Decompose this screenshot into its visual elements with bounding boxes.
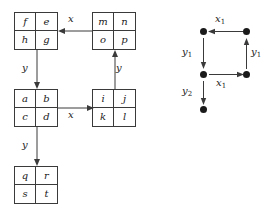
lattice-arrow-y1-left bbox=[197, 38, 210, 70]
arrow-label-left-upper-vertical: y bbox=[22, 63, 28, 73]
block-middle-left: a b c d bbox=[14, 89, 58, 127]
lattice-arrow-x1-top bbox=[208, 25, 244, 38]
block-cell: f bbox=[15, 13, 36, 31]
block-cell: h bbox=[15, 31, 36, 49]
block-bottom-left: q r s t bbox=[14, 166, 58, 204]
block-middle-right: i j k l bbox=[92, 89, 136, 127]
block-cell: k bbox=[93, 108, 114, 126]
lattice-arrow-label-y1-right: y1 bbox=[251, 47, 261, 59]
block-top-left: f e h g bbox=[14, 12, 58, 50]
label-sub: 1 bbox=[222, 82, 226, 90]
lattice-arrow-label-x1-top: x1 bbox=[215, 14, 225, 26]
lattice-node-middle-left bbox=[200, 71, 207, 78]
arrow-middle-horizontal bbox=[58, 101, 94, 115]
arrow-label-right-vertical: y bbox=[116, 63, 122, 73]
block-cell: p bbox=[114, 31, 135, 49]
lattice-node-middle-right bbox=[243, 71, 250, 78]
lattice-arrow-label-y2-left: y2 bbox=[182, 86, 192, 98]
label-sub: 1 bbox=[221, 18, 225, 26]
lattice-node-top-left bbox=[200, 28, 207, 35]
block-cell: i bbox=[93, 90, 114, 108]
arrow-left-lower-vertical bbox=[30, 127, 44, 167]
block-cell: a bbox=[15, 90, 36, 108]
block-cell: o bbox=[93, 31, 114, 49]
label-sub: 1 bbox=[257, 51, 261, 59]
lattice-node-bottom-left bbox=[200, 106, 207, 113]
block-cell: c bbox=[15, 108, 36, 126]
block-cell: t bbox=[36, 185, 57, 203]
lattice-arrow-label-y1-left: y1 bbox=[182, 47, 192, 59]
arrow-left-upper-vertical bbox=[30, 50, 44, 90]
lattice-node-top-right bbox=[243, 28, 250, 35]
block-cell: s bbox=[15, 185, 36, 203]
block-cell: l bbox=[114, 108, 135, 126]
block-cell: b bbox=[36, 90, 57, 108]
block-cell: r bbox=[36, 167, 57, 185]
block-cell: e bbox=[36, 13, 57, 31]
block-cell: n bbox=[114, 13, 135, 31]
block-cell: g bbox=[36, 31, 57, 49]
block-cell: q bbox=[15, 167, 36, 185]
block-cell: j bbox=[114, 90, 135, 108]
lattice-arrow-label-x1-middle: x1 bbox=[216, 78, 226, 90]
label-sub: 2 bbox=[188, 90, 192, 98]
arrow-top-horizontal bbox=[58, 24, 94, 38]
arrow-label-top-horizontal: x bbox=[68, 14, 74, 24]
arrow-label-middle-horizontal: x bbox=[68, 110, 74, 120]
block-top-right: m n o p bbox=[92, 12, 136, 50]
block-cell: d bbox=[36, 108, 57, 126]
label-sub: 1 bbox=[188, 51, 192, 59]
arrow-label-left-lower-vertical: y bbox=[22, 140, 28, 150]
lattice-arrow-x1-middle bbox=[209, 68, 244, 81]
figure-canvas: f e h g m n o p a b c d i j k l q r s t … bbox=[0, 0, 272, 222]
block-cell: m bbox=[93, 13, 114, 31]
lattice-arrow-y2-left bbox=[197, 81, 210, 106]
